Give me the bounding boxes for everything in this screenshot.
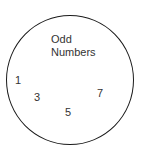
set-element: 3 [34, 91, 40, 103]
set-label-line1: Odd [51, 33, 96, 46]
set-element: 5 [65, 106, 71, 118]
set-label: Odd Numbers [51, 33, 96, 59]
set-element: 1 [15, 74, 21, 86]
set-element: 7 [97, 87, 103, 99]
set-label-line2: Numbers [51, 46, 96, 59]
